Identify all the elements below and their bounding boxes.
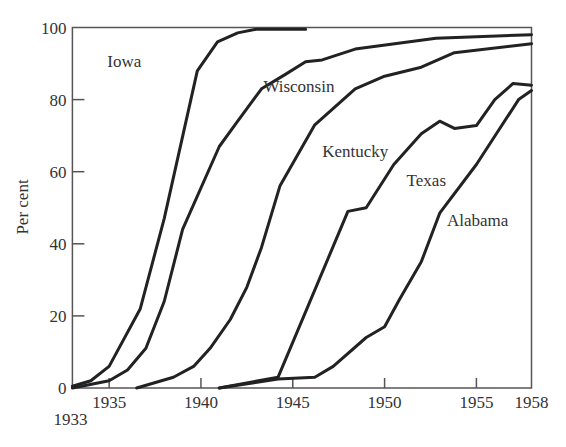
- y-tick-label: 20: [49, 307, 66, 326]
- series-line-alabama: [219, 91, 531, 388]
- line-chart: 0204060801001933193519401945195019551958…: [0, 0, 566, 447]
- x-tick-label: 1935: [92, 393, 126, 412]
- x-tick-label: 1958: [515, 393, 549, 412]
- x-tick-label: 1945: [276, 393, 310, 412]
- x-tick-label: 1940: [184, 393, 218, 412]
- series-label-kentucky: Kentucky: [322, 142, 389, 161]
- y-tick-label: 100: [41, 19, 67, 38]
- x-tick-label: 1955: [459, 393, 493, 412]
- y-tick-label: 60: [49, 163, 66, 182]
- x-tick-label: 1933: [53, 410, 87, 429]
- y-tick-label: 0: [58, 379, 67, 398]
- series-label-wisconsin: Wisconsin: [263, 77, 335, 96]
- series-label-alabama: Alabama: [447, 211, 509, 230]
- series-label-texas: Texas: [407, 171, 446, 190]
- y-axis-label: Per cent: [13, 179, 32, 235]
- x-tick-label: 1950: [368, 393, 402, 412]
- y-tick-label: 80: [49, 91, 66, 110]
- y-tick-label: 40: [49, 235, 66, 254]
- series-label-iowa: Iowa: [107, 52, 141, 71]
